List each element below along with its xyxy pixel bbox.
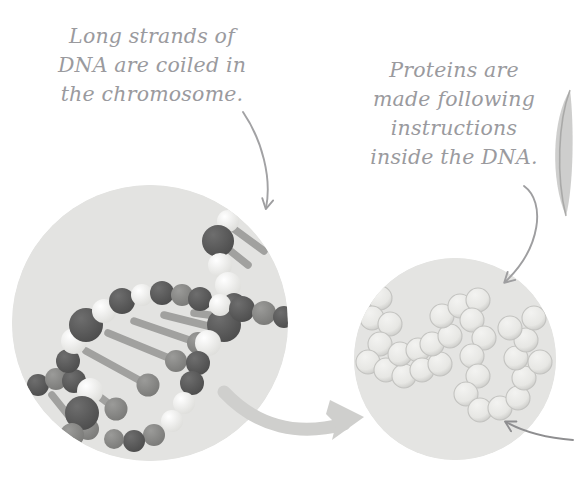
dna-helix-graphic: [12, 185, 288, 461]
protein-callout-arrow: [505, 186, 537, 282]
illustration-canvas: Long strands of DNA are coiled in the ch…: [0, 0, 574, 478]
annotation-chromosome: Long strands of DNA are coiled in the ch…: [24, 22, 280, 109]
dna-double-helix-circle: [12, 185, 288, 461]
chromosome-callout-arrow: [243, 112, 268, 208]
annotation-proteins: Proteins are made following instructions…: [348, 56, 560, 172]
protein-chain-graphic: [354, 258, 556, 460]
protein-chain-circle: [354, 258, 556, 460]
